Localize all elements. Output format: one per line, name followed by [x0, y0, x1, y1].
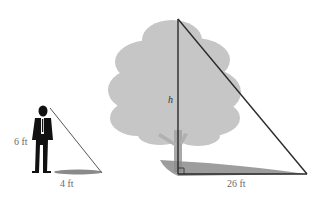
person-illustration — [32, 106, 53, 174]
tree-illustration — [108, 20, 241, 172]
person-shadow — [54, 170, 102, 175]
similar-triangles-diagram — [0, 0, 323, 198]
person-sight-line — [50, 108, 102, 173]
person-height-label: 6 ft — [14, 136, 28, 147]
tree-height-label: h — [168, 94, 173, 105]
person-shadow-label: 4 ft — [60, 178, 74, 189]
tree-shadow-label: 26 ft — [227, 178, 246, 189]
